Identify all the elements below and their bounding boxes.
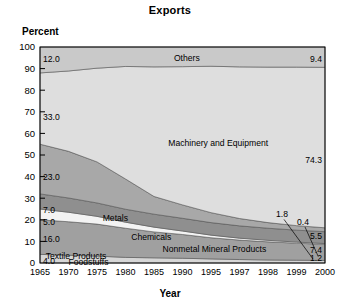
y-tick-label: 90 <box>24 63 35 74</box>
start-value-label: 12.0 <box>43 54 60 64</box>
start-value-label: 33.0 <box>43 112 60 122</box>
x-tick-label: 1997 <box>229 267 249 277</box>
band-label: Machinery and Equipment <box>168 138 268 148</box>
y-tick-label: 30 <box>24 193 35 204</box>
start-value-label: 4.0 <box>43 256 55 266</box>
band-label: Others <box>174 53 200 63</box>
y-tick-label: 60 <box>24 128 35 139</box>
end-value-label: 9.4 <box>310 54 322 64</box>
band-label: Metals <box>103 213 128 223</box>
end-value-label: 5.5 <box>310 231 322 241</box>
start-value-label: 5.0 <box>43 217 55 227</box>
y-tick-label: 10 <box>24 236 35 247</box>
y-tick-label: 50 <box>24 149 35 160</box>
start-value-label: 7.0 <box>43 205 55 215</box>
x-tick-label: 1999 <box>286 267 306 277</box>
x-tick-label: 1980 <box>115 267 135 277</box>
x-tick-labels: 1965197019751980198519901995199719981999… <box>30 267 335 277</box>
x-tick-label: 1990 <box>172 267 192 277</box>
band-label: Chemicals <box>131 232 171 242</box>
x-tick-label: 1975 <box>87 267 107 277</box>
y-tick-label: 40 <box>24 171 35 182</box>
band-label: Nonmetal Mineral Products <box>163 244 267 254</box>
x-tick-label: 1965 <box>30 267 50 277</box>
y-tick-label: 80 <box>24 85 35 96</box>
y-tick-label: 20 <box>24 214 35 225</box>
x-tick-label: 1970 <box>58 267 78 277</box>
band-label: Foodstuffs <box>69 257 109 267</box>
y-tick-label: 70 <box>24 106 35 117</box>
exports-area-chart: Exports Percent Year 0102030405060708090… <box>0 0 340 308</box>
x-tick-label: 1985 <box>144 267 164 277</box>
stacked-areas <box>40 47 325 263</box>
y-tick-labels: 0102030405060708090100 <box>19 41 35 268</box>
x-tick-label: 1995 <box>201 267 221 277</box>
end-value-label: 74.3 <box>305 155 322 165</box>
start-value-label: 23.0 <box>43 172 60 182</box>
start-value-label: 16.0 <box>43 234 60 244</box>
plot-area: 0102030405060708090100 19651970197519801… <box>0 0 340 308</box>
callout-label: 1.8 <box>276 209 288 219</box>
y-tick-label: 100 <box>19 41 35 52</box>
x-tick-label: 2000 <box>315 267 335 277</box>
callout-label: 0.4 <box>297 217 309 227</box>
x-tick-label: 1998 <box>258 267 278 277</box>
